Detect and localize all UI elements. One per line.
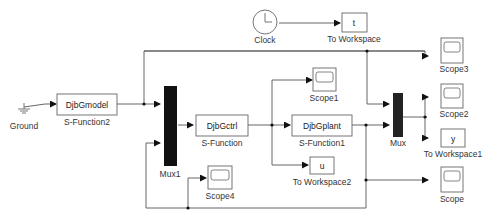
block-scope2[interactable]: Scope2 bbox=[440, 84, 469, 119]
block-label: Ground bbox=[10, 121, 39, 131]
line-ground-sfun2[interactable] bbox=[24, 104, 56, 107]
block-label: To Workspace bbox=[327, 34, 381, 44]
junction-dot bbox=[186, 206, 189, 209]
block-label: To Workspace1 bbox=[424, 149, 483, 159]
line-mux-tows1[interactable] bbox=[425, 117, 428, 138]
block-to-workspace[interactable]: t To Workspace bbox=[327, 13, 381, 44]
block-clock[interactable]: Clock bbox=[253, 10, 277, 45]
block-text: DjbGctrl bbox=[207, 121, 238, 131]
block-label: S-Function bbox=[201, 138, 242, 148]
scope-icon bbox=[316, 72, 333, 82]
line-branch-scope3[interactable] bbox=[144, 51, 427, 104]
block-label: S-Function1 bbox=[299, 138, 345, 148]
block-to-workspace2[interactable]: u To Workspace2 bbox=[293, 157, 352, 187]
block-s-function1[interactable]: DjbGplant S-Function1 bbox=[292, 115, 352, 148]
scope-icon bbox=[444, 42, 460, 52]
junction-dot bbox=[270, 123, 273, 126]
block-label: Mux bbox=[390, 138, 407, 148]
scope-icon bbox=[444, 171, 460, 181]
block-scope[interactable]: Scope bbox=[440, 167, 464, 204]
block-label: Scope4 bbox=[206, 191, 235, 201]
block-scope4[interactable]: Scope4 bbox=[206, 166, 235, 201]
block-text: DjbGplant bbox=[303, 121, 341, 131]
block-label: S-Function2 bbox=[64, 117, 110, 127]
line-mux-scope2[interactable] bbox=[425, 97, 428, 117]
junction-dot bbox=[364, 123, 367, 126]
scope-icon bbox=[444, 88, 460, 98]
block-text: u bbox=[320, 161, 325, 171]
block-label: To Workspace2 bbox=[293, 177, 352, 187]
block-ground[interactable]: Ground bbox=[10, 103, 39, 131]
junction-dot bbox=[142, 102, 145, 105]
block-s-function2[interactable]: DjbGmodel S-Function2 bbox=[57, 94, 117, 127]
block-mux[interactable]: Mux bbox=[390, 93, 407, 148]
block-s-function[interactable]: DjbGctrl S-Function bbox=[196, 115, 248, 148]
block-label: Mux1 bbox=[160, 169, 181, 179]
block-scope3[interactable]: Scope3 bbox=[440, 38, 469, 74]
junction-dot bbox=[364, 178, 367, 181]
block-label: Clock bbox=[254, 35, 276, 45]
ground-icon bbox=[18, 103, 30, 113]
line-branch-scope4[interactable] bbox=[188, 178, 206, 208]
line-branch-mux-in1[interactable] bbox=[367, 51, 389, 104]
block-scope1[interactable]: Scope1 bbox=[310, 68, 339, 103]
block-text: DjbGmodel bbox=[66, 100, 109, 110]
simulink-canvas: Ground DjbGmodel S-Function2 Mux1 DjbGct… bbox=[0, 0, 490, 223]
junction-dot bbox=[423, 115, 426, 118]
block-label: Scope1 bbox=[310, 93, 339, 103]
block-to-workspace1[interactable]: y To Workspace1 bbox=[424, 129, 483, 159]
block-label: Scope bbox=[440, 194, 464, 204]
scope-icon bbox=[211, 170, 229, 180]
clock-icon bbox=[253, 10, 277, 34]
block-mux1[interactable]: Mux1 bbox=[160, 86, 181, 179]
junction-dot bbox=[365, 49, 368, 52]
block-label: Scope3 bbox=[440, 64, 469, 74]
junction-dots bbox=[142, 49, 426, 209]
block-label: Scope2 bbox=[440, 109, 469, 119]
